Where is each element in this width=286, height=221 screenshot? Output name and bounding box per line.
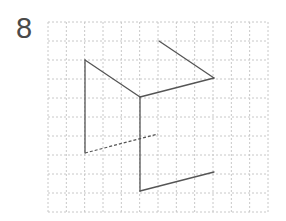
- isometric-grid-diagram: [0, 0, 286, 221]
- dot-grid: [48, 22, 268, 212]
- figure-edge: [140, 78, 214, 97]
- figure-edge: [140, 172, 214, 191]
